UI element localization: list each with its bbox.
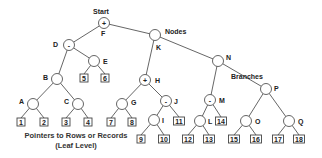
branch-lines — [33, 23, 289, 121]
leaf-box-18: 18 — [294, 135, 305, 143]
nodes-label: Nodes — [165, 28, 187, 35]
leaf-number: 12 — [184, 136, 192, 143]
leaf-box-9: 9 — [137, 135, 145, 143]
node-circle — [150, 30, 161, 41]
start-label: Start — [93, 8, 110, 15]
node-P: P — [261, 84, 280, 95]
node-J: -J — [161, 96, 179, 107]
node-label: C — [64, 98, 69, 105]
node-I: I — [149, 115, 165, 126]
node-circle — [52, 74, 63, 85]
node-G: G — [117, 99, 138, 110]
node-circle — [28, 99, 39, 110]
leaf-box-4: 4 — [84, 118, 92, 126]
node-label: B — [43, 74, 48, 81]
node-label: K — [156, 44, 161, 51]
branch-line-F-K — [104, 23, 155, 35]
leaf-number: 17 — [274, 136, 282, 143]
leaf-box-15: 15 — [229, 135, 240, 143]
node-circle — [117, 99, 128, 110]
leaf-box-13: 13 — [204, 135, 215, 143]
node-label: F — [101, 30, 106, 37]
tree-nodes: +F-DKEBAC+HG-JINP-MLOQ — [19, 18, 304, 127]
node-label: Q — [298, 118, 304, 126]
leaf-number: 2 — [42, 119, 46, 126]
node-label: I — [162, 117, 164, 124]
node-label: O — [255, 118, 261, 125]
node-label: D — [53, 41, 58, 48]
leaf-box-7: 7 — [107, 118, 115, 126]
node-H: +H — [140, 75, 161, 86]
branch-line-N-M — [210, 61, 218, 100]
leaf-number: 14 — [217, 118, 225, 125]
leaf-box-5: 5 — [80, 74, 88, 82]
leaf-box-6: 6 — [101, 74, 109, 82]
leaf-box-2: 2 — [40, 118, 48, 126]
plus-icon: + — [143, 77, 147, 84]
leaf-number: 8 — [130, 119, 134, 126]
leaf-number: 7 — [109, 119, 113, 126]
caption-line-2: (Leaf Level) — [55, 141, 97, 150]
node-L: L — [195, 116, 214, 127]
node-label: M — [219, 97, 225, 104]
node-label: N — [226, 54, 231, 61]
node-label: L — [208, 118, 213, 125]
node-F: +F — [99, 18, 110, 38]
node-circle — [261, 84, 272, 95]
leaf-box-8: 8 — [128, 118, 136, 126]
leaf-number: 16 — [252, 136, 260, 143]
node-label: E — [103, 58, 108, 65]
node-label: G — [131, 99, 137, 106]
node-label: A — [19, 98, 24, 105]
branch-line-K-H — [145, 35, 155, 80]
leaf-box-14: 14 — [216, 117, 227, 125]
leaf-number: 15 — [230, 136, 238, 143]
node-circle — [89, 56, 100, 67]
node-K: K — [150, 30, 162, 52]
b-tree-diagram: +F-DKEBAC+HG-JINP-MLOQ 56123478119101412… — [0, 0, 322, 158]
plus-icon: + — [102, 20, 106, 27]
node-B: B — [43, 74, 63, 85]
node-label: P — [274, 85, 279, 92]
node-circle — [73, 99, 84, 110]
node-circle — [149, 115, 160, 126]
node-D: -D — [53, 40, 75, 51]
leaf-number: 11 — [175, 118, 183, 125]
node-circle — [195, 116, 206, 127]
node-C: C — [64, 98, 84, 110]
leaf-number: 4 — [86, 119, 90, 126]
branches-label: Branches — [231, 73, 263, 80]
leaf-box-11: 11 — [174, 117, 185, 125]
leaf-number: 9 — [139, 136, 143, 143]
leaf-number: 3 — [64, 119, 68, 126]
leaf-number: 6 — [103, 75, 107, 82]
leaf-box-12: 12 — [183, 135, 194, 143]
caption-line-1: Pointers to Rows or Records — [25, 131, 128, 140]
node-M: -M — [205, 95, 226, 106]
node-Q: Q — [284, 116, 305, 127]
leaf-number: 13 — [205, 136, 213, 143]
leaf-box-16: 16 — [251, 135, 262, 143]
leaf-box-3: 3 — [62, 118, 70, 126]
node-A: A — [19, 98, 39, 110]
branch-line-F-D — [69, 23, 104, 45]
leaf-number: 18 — [295, 136, 303, 143]
leaf-box-1: 1 — [17, 118, 25, 126]
node-label: J — [174, 98, 178, 105]
branch-line-K-N — [155, 35, 218, 61]
leaf-box-17: 17 — [273, 135, 284, 143]
leaf-box-10: 10 — [159, 135, 170, 143]
node-circle — [284, 116, 295, 127]
node-O: O — [241, 116, 262, 127]
node-N: N — [213, 54, 232, 67]
node-circle — [241, 116, 252, 127]
node-E: E — [89, 56, 109, 67]
node-circle — [213, 56, 224, 67]
leaf-number: 5 — [82, 75, 86, 82]
node-label: H — [155, 77, 160, 84]
leaf-number: 10 — [160, 136, 168, 143]
leaf-number: 1 — [19, 119, 23, 126]
